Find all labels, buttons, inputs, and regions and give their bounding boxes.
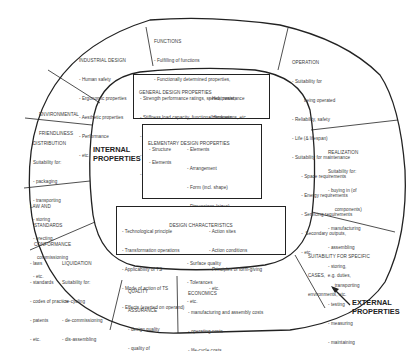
elementary-design-properties-box: ELEMENTARY DESIGN PROPERTIES - Structure… <box>142 124 262 199</box>
economics-section: ECONOMICS - manufacturing and assembly c… <box>188 278 282 351</box>
quality-assurance-section: QUALITY ASSURANCE - design quality - qua… <box>128 276 160 351</box>
liquidation-section: LIQUIDATION Suitability for: - re-cyclin… <box>62 248 103 351</box>
suitability-specific-section: SUITABILITY FOR SPECIFIC CASES, e.g. dut… <box>308 241 370 304</box>
functions-section: FUNCTIONS - Fulfilling of functions - Fu… <box>154 26 247 128</box>
design-characteristics-box: DESIGN CHARACTERISTICS - Technological p… <box>116 206 286 255</box>
industrial-design-section: INDUSTRIAL DESIGN - Human safety - Ergon… <box>79 45 127 166</box>
